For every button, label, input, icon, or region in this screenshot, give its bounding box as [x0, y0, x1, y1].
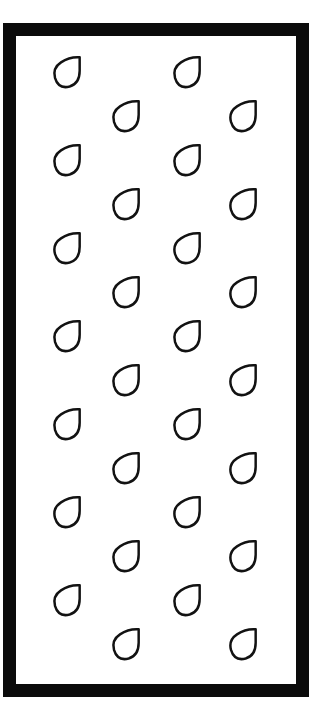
raindrop-icon: [51, 407, 83, 444]
raindrop-icon: [51, 319, 83, 356]
raindrop-icon: [110, 363, 142, 400]
raindrop-icon: [110, 99, 142, 136]
raindrop-icon: [171, 319, 203, 356]
raindrop-icon: [110, 187, 142, 224]
raindrop-icon: [171, 495, 203, 532]
raindrop-icon: [227, 363, 259, 400]
raindrop-pattern-field: [16, 36, 296, 684]
raindrop-icon: [51, 55, 83, 92]
raindrop-icon: [110, 627, 142, 664]
raindrop-icon: [171, 583, 203, 620]
raindrop-icon: [171, 143, 203, 180]
raindrop-icon: [110, 539, 142, 576]
raindrop-icon: [227, 99, 259, 136]
raindrop-icon: [110, 275, 142, 312]
raindrop-icon: [51, 495, 83, 532]
raindrop-icon: [227, 451, 259, 488]
raindrop-icon: [51, 143, 83, 180]
raindrop-icon: [227, 627, 259, 664]
raindrop-icon: [51, 231, 83, 268]
raindrop-icon: [51, 583, 83, 620]
raindrop-icon: [227, 539, 259, 576]
raindrop-icon: [171, 407, 203, 444]
raindrop-icon: [171, 55, 203, 92]
raindrop-icon: [227, 187, 259, 224]
card-canvas: [0, 0, 315, 710]
raindrop-icon: [171, 231, 203, 268]
raindrop-icon: [110, 451, 142, 488]
raindrop-icon: [227, 275, 259, 312]
